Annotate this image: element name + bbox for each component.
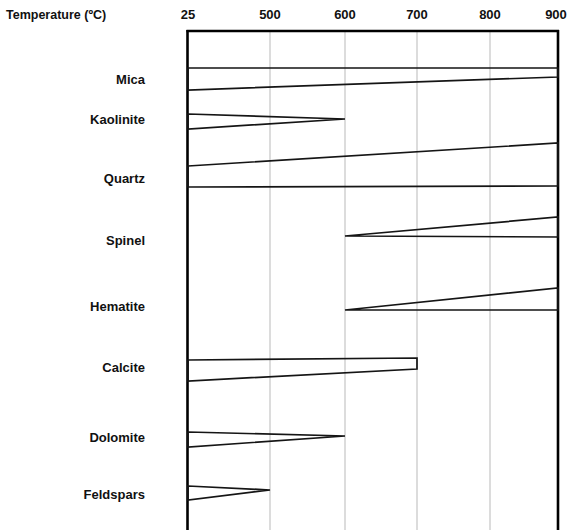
wedge-calcite (188, 358, 417, 381)
mineral-temperature-chart: Temperature (ºC) 25 500 600 700 800 900 (0, 0, 571, 530)
label-hematite: Hematite (90, 299, 145, 314)
label-mica: Mica (116, 72, 146, 87)
wedge-hematite (345, 288, 558, 310)
tick-label-500: 500 (259, 7, 281, 22)
tick-label-900: 900 (545, 7, 567, 22)
label-spinel: Spinel (106, 233, 145, 248)
mineral-labels: Mica Kaolinite Quartz Spinel Hematite Ca… (84, 72, 146, 502)
label-calcite: Calcite (102, 360, 145, 375)
gridlines (270, 30, 490, 530)
wedge-spinel (345, 217, 558, 237)
label-feldspars: Feldspars (84, 487, 145, 502)
tick-label-25: 25 (181, 7, 195, 22)
wedge-kaolinite (188, 114, 345, 129)
axis-title-temperature: Temperature (ºC) (6, 8, 106, 22)
wedge-feldspars (188, 486, 270, 500)
tick-label-600: 600 (334, 7, 356, 22)
label-dolomite: Dolomite (89, 430, 145, 445)
wedge-dolomite (188, 432, 345, 447)
plot-frame (187, 30, 560, 530)
label-kaolinite: Kaolinite (90, 112, 145, 127)
tick-label-700: 700 (406, 7, 428, 22)
chart-canvas: Temperature (ºC) 25 500 600 700 800 900 (0, 0, 571, 530)
wedge-quartz (188, 143, 558, 187)
label-quartz: Quartz (104, 171, 146, 186)
wedge-mica (188, 68, 558, 90)
tick-label-800: 800 (479, 7, 501, 22)
mineral-wedges (188, 68, 558, 500)
